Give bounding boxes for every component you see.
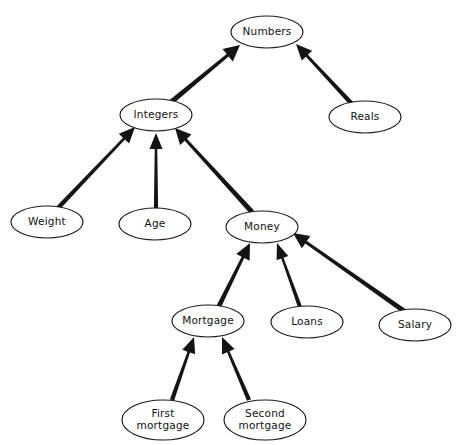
node-weight[interactable]: Weight xyxy=(11,206,83,238)
edge-arrow-age-to-integers xyxy=(149,133,162,208)
node-salary[interactable]: Salary xyxy=(379,309,451,341)
edge-arrow-first-to-mortgage xyxy=(170,337,195,401)
node-label-reals: Reals xyxy=(350,110,379,122)
nodes-layer: NumbersIntegersRealsWeightAgeMoneyMortga… xyxy=(11,16,451,440)
node-second[interactable]: Secondmortgage xyxy=(224,400,306,440)
edge-arrow-money-to-integers xyxy=(175,128,254,214)
type-hierarchy-diagram: NumbersIntegersRealsWeightAgeMoneyMortga… xyxy=(0,0,465,445)
node-label-weight: Weight xyxy=(28,215,66,227)
node-first[interactable]: Firstmortgage xyxy=(122,400,204,440)
edge-arrow-reals-to-numbers xyxy=(296,44,354,106)
node-money[interactable]: Money xyxy=(226,211,298,243)
edge-arrow-mortgage-to-money xyxy=(217,243,250,307)
node-label-numbers: Numbers xyxy=(242,25,291,37)
node-label-salary: Salary xyxy=(398,318,432,330)
node-loans[interactable]: Loans xyxy=(271,306,343,338)
node-mortgage[interactable]: Mortgage xyxy=(172,305,244,337)
edge-arrow-integers-to-numbers xyxy=(168,45,240,105)
node-age[interactable]: Age xyxy=(119,208,191,240)
diagram-canvas: NumbersIntegersRealsWeightAgeMoneyMortga… xyxy=(0,0,465,445)
node-label-second: Secondmortgage xyxy=(239,407,292,431)
node-label-money: Money xyxy=(244,220,280,232)
node-numbers[interactable]: Numbers xyxy=(231,16,303,48)
edge-arrow-weight-to-integers xyxy=(56,127,135,210)
node-label-integers: Integers xyxy=(134,108,179,120)
edge-arrow-loans-to-money xyxy=(277,243,302,308)
node-label-loans: Loans xyxy=(291,315,323,327)
edge-arrow-second-to-mortgage xyxy=(222,337,251,401)
node-label-mortgage: Mortgage xyxy=(182,314,234,326)
node-label-age: Age xyxy=(145,217,166,229)
node-reals[interactable]: Reals xyxy=(329,101,401,133)
edge-arrow-salary-to-money xyxy=(293,233,405,313)
node-integers[interactable]: Integers xyxy=(120,99,192,131)
